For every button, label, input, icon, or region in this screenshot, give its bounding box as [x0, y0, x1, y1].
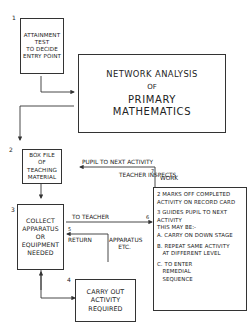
title-line-4: MATHEMATICS	[113, 106, 191, 118]
node-2-number: 2	[9, 146, 13, 153]
node-3-number: 3	[11, 206, 15, 213]
title-line-3: PRIMARY	[128, 94, 176, 106]
label-apparatus-etc: APPARATUS ETC.	[109, 237, 142, 251]
node-attainment-test: ATTAINMENT TEST TO DECIDE ENTRY POINT	[20, 18, 64, 74]
node-box-file: BOX FILE OF TEACHING MATERIAL	[22, 149, 62, 184]
node-3-text: COLLECT APPARATUS OR EQUIPMENT NEEDED	[22, 217, 59, 257]
node-1-number: 1	[12, 14, 16, 21]
node-4-number: 4	[67, 276, 71, 283]
label-step-5: 5	[68, 226, 71, 232]
node-4-text: CARRY OUT ACTIVITY REQUIRED	[87, 288, 125, 314]
node-2-text: BOX FILE OF TEACHING MATERIAL	[27, 152, 57, 181]
node-collect-apparatus: COLLECT APPARATUS OR EQUIPMENT NEEDED	[17, 204, 64, 270]
title-box: NETWORK ANALYSIS OF PRIMARY MATHEMATICS	[78, 54, 226, 133]
label-to-teacher: TO TEACHER	[72, 214, 109, 220]
label-step-7: 7	[151, 168, 154, 174]
label-pupil-next-activity: PUPIL TO NEXT ACTIVITY	[82, 159, 153, 165]
title-line-1: NETWORK ANALYSIS	[106, 69, 197, 79]
label-return: RETURN	[68, 237, 92, 243]
teacher-item-c: C. TO ENTER REMEDIAL SEQUENCE	[157, 261, 193, 284]
teacher-item-a: A. CARRY ON DOWN STAGE	[157, 232, 233, 240]
node-1-text: ATTAINMENT TEST TO DECIDE ENTRY POINT	[23, 32, 61, 61]
teacher-item-3: 3 GUIDES PUPIL TO NEXT ACTIVITY THIS MAY…	[157, 209, 227, 232]
node-carry-out-activity: CARRY OUT ACTIVITY REQUIRED	[75, 279, 136, 322]
title-line-2: OF	[147, 83, 157, 91]
teacher-item-b: B. REPEAT SAME ACTIVITY AT DIFFERENT LEV…	[157, 243, 230, 258]
label-work: WORK	[160, 175, 178, 181]
label-step-6: 6	[146, 214, 149, 220]
teacher-action-box: 2 MARKS OFF COMPLETED ACTIVITY ON RECORD…	[153, 187, 247, 311]
teacher-item-2: 2 MARKS OFF COMPLETED ACTIVITY ON RECORD…	[157, 191, 235, 206]
